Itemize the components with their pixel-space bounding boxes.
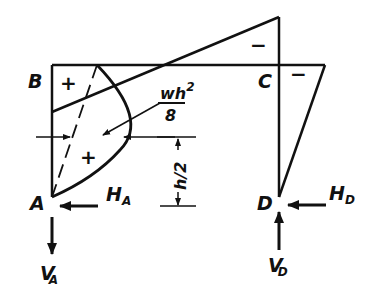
node-label-b: B — [28, 70, 42, 92]
svg-text:wh2: wh2 — [160, 80, 195, 103]
portal-frame-diagram: B C A D HA VA HD VD + + − − wh2 8 h/2 — [0, 0, 379, 307]
node-label-c: C — [258, 70, 272, 92]
sign-minus-right-c: − — [290, 62, 307, 86]
sign-plus-b-region: + — [60, 71, 77, 95]
dimension-label-h-half: h/2 — [171, 162, 190, 190]
reaction-label-va: VA — [40, 262, 58, 287]
node-label-d: D — [257, 192, 273, 214]
node-label-a: A — [28, 192, 45, 214]
reaction-label-ha: HA — [106, 183, 131, 208]
reaction-label-vd: VD — [268, 254, 288, 279]
moment-value-label: wh2 8 — [158, 80, 195, 125]
sign-minus-top-c: − — [250, 33, 267, 57]
svg-text:8: 8 — [165, 106, 176, 125]
reaction-label-hd: HD — [329, 182, 355, 207]
sign-plus-parabola: + — [80, 145, 97, 169]
